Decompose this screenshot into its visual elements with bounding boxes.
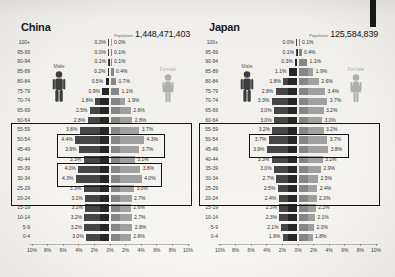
bar-male-inner — [288, 234, 298, 241]
female-value-label: 2.3% — [319, 194, 347, 204]
bar-female-inner — [299, 185, 309, 192]
bar-male — [274, 117, 297, 124]
bar-male-inner — [288, 214, 298, 221]
bar-female — [299, 117, 322, 124]
bar-male-inner — [288, 185, 298, 192]
bar-female-inner — [299, 39, 300, 46]
x-axis-tick — [32, 244, 33, 247]
age-group-label: 90-94 — [194, 57, 218, 67]
x-axis-tick — [110, 244, 111, 247]
bar-male — [283, 78, 297, 85]
bar-female — [299, 78, 319, 85]
male-value-label: 2.5% — [248, 184, 276, 194]
female-value-label: 2.6% — [321, 77, 349, 87]
pyramid-row: 50-543.7%3.7% — [0, 135, 395, 145]
bar-male — [269, 136, 298, 143]
bar-female-inner — [299, 234, 309, 241]
bar-female — [299, 204, 316, 211]
age-group-label: 20-24 — [194, 194, 218, 204]
age-group-label: 0-4 — [194, 232, 218, 242]
age-group-label: 30-34 — [194, 174, 218, 184]
age-group-label: 5-9 — [194, 223, 218, 233]
pyramid-row: 10-142.3%2.1% — [0, 213, 395, 223]
male-value-label: 1.9% — [252, 232, 280, 242]
age-group-label: 80-84 — [194, 77, 218, 87]
bar-male — [279, 204, 297, 211]
bar-female — [299, 49, 302, 56]
bar-male-inner — [288, 195, 298, 202]
female-value-label: 2.2% — [318, 203, 346, 213]
bar-male — [272, 127, 297, 134]
age-group-label: 65-69 — [194, 106, 218, 116]
bar-female — [299, 88, 326, 95]
pyramid-row: 65-693.0%3.2% — [0, 106, 395, 116]
x-axis-tick — [63, 244, 64, 247]
x-axis-tick — [282, 244, 283, 247]
female-value-label: 3.4% — [328, 87, 356, 97]
x-axis-tick — [78, 244, 79, 247]
bar-male-inner — [288, 107, 298, 114]
age-group-label: 100+ — [194, 38, 218, 48]
male-value-label: 2.3% — [249, 203, 277, 213]
pyramid-row: 45-493.9%3.8% — [0, 145, 395, 155]
female-value-label: 1.1% — [310, 57, 338, 67]
female-value-label: 2.9% — [324, 164, 352, 174]
x-axis-tick — [313, 244, 314, 247]
bar-male — [272, 156, 298, 163]
age-group-label: 45-49 — [194, 145, 218, 155]
bar-male-inner — [288, 146, 298, 153]
male-value-label: 2.7% — [246, 174, 274, 184]
pyramid-row: 55-593.2%3.2% — [0, 125, 395, 135]
bar-female-inner — [299, 204, 309, 211]
bar-male — [274, 166, 297, 173]
female-value-label: 0.1% — [302, 38, 330, 48]
male-value-label: 2.4% — [248, 194, 276, 204]
bar-male — [283, 234, 298, 241]
bar-female — [299, 224, 315, 231]
bar-male — [296, 49, 297, 56]
x-axis-tick — [329, 244, 330, 247]
female-value-label: 3.2% — [326, 106, 354, 116]
bar-female-inner — [299, 195, 309, 202]
bar-female — [299, 59, 308, 66]
bar-male-inner — [288, 175, 298, 182]
bar-male — [295, 59, 297, 66]
x-axis-tick — [141, 244, 142, 247]
bar-female — [299, 185, 318, 192]
bar-female-inner — [299, 166, 309, 173]
age-group-label: 70-74 — [194, 96, 218, 106]
bar-male-inner — [288, 98, 298, 105]
male-value-label: 2.8% — [245, 87, 273, 97]
pyramid-row: 25-292.5%2.4% — [0, 184, 395, 194]
pyramid-row: 60-643.0%3.0% — [0, 116, 395, 126]
pyramid-row: 15-192.3%2.2% — [0, 203, 395, 213]
bar-male-inner — [289, 68, 298, 75]
pyramid-row: 0-41.9%1.8% — [0, 232, 395, 242]
female-value-label: 3.8% — [331, 145, 359, 155]
bar-male — [276, 88, 298, 95]
male-value-label: 3.0% — [244, 164, 272, 174]
pyramid-row: 95-990.1%0.4% — [0, 48, 395, 58]
male-value-label: 2.1% — [251, 223, 279, 233]
male-value-label: 3.7% — [238, 135, 266, 145]
bar-male-inner — [288, 88, 298, 95]
bar-female — [299, 156, 323, 163]
male-value-label: 3.2% — [242, 125, 270, 135]
x-axis-tick-label: 10% — [367, 247, 385, 253]
bar-female — [299, 175, 319, 182]
bar-female-inner — [299, 156, 309, 163]
bar-female — [299, 68, 314, 75]
population-pyramid-comparison: China Population1,448,471,403 Male Femal… — [0, 0, 395, 277]
bar-male-inner — [288, 204, 298, 211]
female-value-label: 2.1% — [317, 213, 345, 223]
bar-female-inner — [299, 175, 309, 182]
female-value-label: 2.5% — [321, 174, 349, 184]
bar-female-inner — [299, 107, 309, 114]
female-value-label: 1.8% — [315, 232, 343, 242]
female-value-label: 3.2% — [326, 125, 354, 135]
x-axis-tick — [360, 244, 361, 247]
pyramid-row: 100+0.0%0.1% — [0, 38, 395, 48]
age-group-label: 95-99 — [194, 48, 218, 58]
bar-female-inner — [299, 214, 309, 221]
age-group-label: 25-29 — [194, 184, 218, 194]
